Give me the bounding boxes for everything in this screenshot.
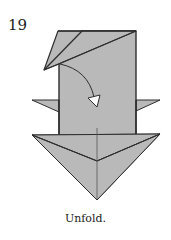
right-side-point [136,100,160,111]
step-caption: Unfold. [0,212,171,225]
origami-diagram [0,0,171,240]
left-side-point [32,100,59,112]
